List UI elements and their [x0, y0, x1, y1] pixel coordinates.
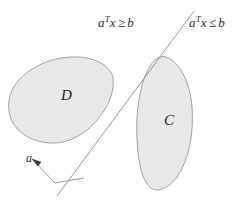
halfspace-left-variable: x: [110, 15, 116, 30]
halfspace-left-relation: ≥: [116, 15, 127, 30]
halfspace-left-bound: b: [127, 15, 134, 30]
normal-vector-arrowhead: [32, 159, 41, 166]
halfspace-right-variable: x: [201, 15, 207, 30]
halfspace-right-relation: ≤: [207, 15, 218, 30]
halfspace-label-right: aTx≤b: [189, 15, 225, 29]
separating-hyperplane-figure: aTx≥b aTx≤b D C a: [0, 0, 250, 205]
set-label-c: C: [164, 113, 174, 128]
figure-canvas: [0, 0, 250, 205]
normal-vector-label: a: [26, 152, 32, 164]
halfspace-right-vector: a: [189, 15, 196, 30]
halfspace-label-left: aTx≥b: [98, 15, 134, 29]
set-label-d: D: [61, 88, 72, 103]
halfspace-right-bound: b: [218, 15, 225, 30]
halfspace-left-vector: a: [98, 15, 105, 30]
